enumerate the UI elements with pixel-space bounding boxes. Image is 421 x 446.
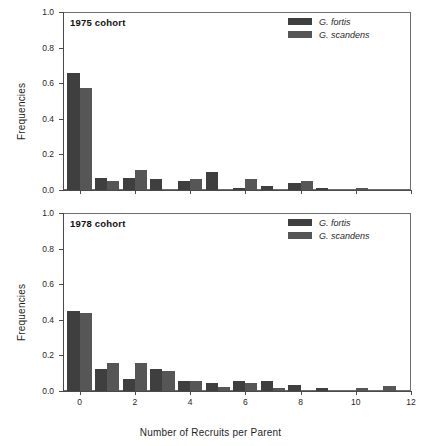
legend-swatch-scandens — [288, 31, 312, 38]
y-tick-label: 1.0 — [32, 209, 54, 217]
x-tick — [190, 190, 191, 194]
x-tick — [135, 391, 136, 395]
figure-root: Frequencies 1975 cohort G. fortis G. sca… — [0, 0, 421, 446]
bar — [206, 383, 218, 391]
y-tick-label: 0.4 — [32, 115, 54, 123]
bar — [150, 369, 162, 391]
x-axis-line-1975 — [63, 190, 411, 191]
y-tick — [59, 213, 63, 214]
x-tick — [411, 391, 412, 395]
bar — [135, 363, 147, 391]
bar — [261, 381, 273, 391]
legend-label-fortis: G. fortis — [319, 17, 351, 27]
x-axis-title: Number of Recruits per Parent — [0, 427, 421, 438]
x-tick — [80, 391, 81, 395]
bar — [233, 188, 245, 190]
bar — [316, 388, 328, 391]
bar — [218, 387, 230, 391]
y-tick — [59, 320, 63, 321]
bar — [288, 385, 300, 391]
y-tick-label: 1.0 — [32, 8, 54, 16]
bar — [316, 188, 328, 190]
y-axis-title-1978: Frequencies — [16, 284, 27, 341]
x-tick — [245, 190, 246, 194]
legend-swatch-scandens — [288, 232, 312, 239]
y-tick — [59, 190, 63, 191]
bar — [356, 388, 368, 391]
y-tick-label: 0.6 — [32, 280, 54, 288]
y-tick-label: 0.6 — [32, 79, 54, 87]
bar — [383, 386, 395, 391]
bar — [233, 381, 245, 391]
y-tick — [59, 249, 63, 250]
x-tick-label: 10 — [346, 398, 366, 407]
y-tick — [59, 48, 63, 49]
y-tick-label: 0.4 — [32, 316, 54, 324]
bar — [178, 381, 190, 391]
y-tick — [59, 355, 63, 356]
legend-label-scandens: G. scandens — [319, 231, 370, 241]
legend-label-fortis: G. fortis — [319, 218, 351, 228]
x-tick — [411, 190, 412, 194]
bar — [107, 363, 119, 391]
x-tick — [80, 190, 81, 194]
bar — [245, 383, 257, 391]
chart-panel-1978: Frequencies 1978 cohort G. fortis G. sca… — [0, 205, 421, 446]
y-tick-label: 0.2 — [32, 351, 54, 359]
y-tick — [59, 83, 63, 84]
y-tick — [59, 119, 63, 120]
bar — [67, 311, 79, 391]
x-tick — [356, 391, 357, 395]
bar — [123, 379, 135, 391]
bar — [135, 170, 147, 190]
y-tick-label: 0.0 — [32, 186, 54, 194]
x-axis-line-1978 — [63, 391, 411, 392]
x-tick-label: 2 — [125, 398, 145, 407]
x-tick-label: 0 — [70, 398, 90, 407]
bar — [123, 178, 135, 190]
bar — [273, 388, 285, 391]
bar — [95, 178, 107, 190]
x-tick — [356, 190, 357, 194]
bar — [190, 179, 202, 190]
bar — [190, 381, 202, 391]
chart-panel-1975: Frequencies 1975 cohort G. fortis G. sca… — [0, 0, 421, 205]
x-tick — [135, 190, 136, 194]
bar — [107, 181, 119, 190]
y-tick — [59, 284, 63, 285]
legend-swatch-fortis — [288, 18, 312, 25]
legend-swatch-fortis — [288, 219, 312, 226]
y-tick — [59, 12, 63, 13]
x-tick-label: 6 — [235, 398, 255, 407]
x-tick — [245, 391, 246, 395]
y-tick-label: 0.2 — [32, 150, 54, 158]
bar — [288, 183, 300, 190]
bar — [67, 73, 79, 190]
bar — [245, 179, 257, 190]
bar — [80, 313, 92, 391]
x-tick-label: 12 — [401, 398, 421, 407]
x-tick — [190, 391, 191, 395]
bar — [80, 88, 92, 190]
bar — [261, 186, 273, 190]
bar — [178, 181, 190, 190]
x-tick — [301, 391, 302, 395]
y-tick-label: 0.8 — [32, 44, 54, 52]
bar — [356, 188, 368, 190]
y-axis-title-1975: Frequencies — [16, 83, 27, 140]
y-tick-label: 0.8 — [32, 245, 54, 253]
x-tick — [301, 190, 302, 194]
bar — [301, 181, 313, 190]
x-tick-label: 8 — [291, 398, 311, 407]
y-tick — [59, 391, 63, 392]
y-tick — [59, 154, 63, 155]
bar — [150, 179, 162, 190]
y-tick-label: 0.0 — [32, 387, 54, 395]
bar — [206, 172, 218, 190]
bar — [162, 371, 174, 391]
bar — [95, 369, 107, 391]
x-tick-label: 4 — [180, 398, 200, 407]
legend-label-scandens: G. scandens — [319, 30, 370, 40]
